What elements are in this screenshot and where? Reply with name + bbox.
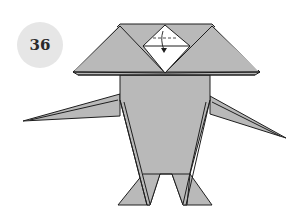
origami-figure <box>0 0 302 222</box>
right-wing <box>210 96 286 138</box>
left-wing <box>23 94 120 121</box>
origami-diagram: 36 <box>0 0 302 222</box>
